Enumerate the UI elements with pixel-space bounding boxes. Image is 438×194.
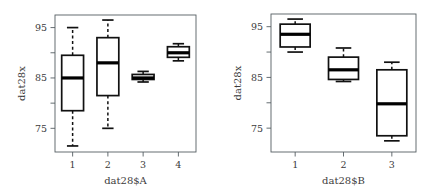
y-axis-tick-label: 85: [35, 72, 47, 83]
x-axis-tick-label: 4: [175, 159, 181, 170]
x-axis-tick-label: 1: [70, 159, 76, 170]
y-axis-title: dat28x: [16, 66, 27, 101]
boxplot-panel-b: 758595dat28x123dat28$B: [219, 0, 438, 194]
y-axis-tick-label: 75: [35, 123, 47, 134]
box-iqr: [62, 55, 84, 110]
boxplot-svg: 758595dat28x1234dat28$A: [0, 0, 219, 194]
x-axis-tick-label: 3: [389, 159, 395, 170]
box-group: [280, 19, 310, 52]
x-axis-tick-label: 2: [340, 159, 346, 170]
box-group: [97, 20, 119, 128]
x-axis-tick-label: 3: [140, 159, 146, 170]
box-group: [377, 62, 407, 141]
box-iqr: [97, 38, 119, 96]
x-axis-title: dat28$B: [322, 175, 365, 186]
boxplot-svg: 758595dat28x123dat28$B: [219, 0, 438, 194]
y-axis-tick-label: 75: [251, 123, 263, 134]
y-axis-title: dat28x: [232, 65, 243, 100]
box-group: [167, 44, 189, 61]
y-axis-tick-label: 85: [251, 72, 263, 83]
boxplot-figure: 758595dat28x1234dat28$A 758595dat28x123d…: [0, 0, 438, 194]
x-axis-tick-label: 1: [292, 159, 298, 170]
box-group: [62, 28, 84, 146]
y-axis-tick-label: 95: [251, 21, 263, 32]
boxplot-panel-a: 758595dat28x1234dat28$A: [0, 0, 219, 194]
x-axis-title: dat28$A: [104, 175, 147, 186]
box-group: [132, 71, 154, 82]
box-group: [329, 48, 359, 81]
x-axis-tick-label: 2: [105, 159, 111, 170]
y-axis-tick-label: 95: [35, 22, 47, 33]
